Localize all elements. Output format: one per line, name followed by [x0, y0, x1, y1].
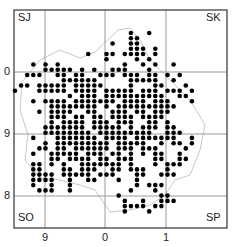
record-dot	[190, 99, 195, 104]
record-dot	[116, 104, 121, 109]
record-dot	[68, 167, 73, 172]
record-dot	[153, 46, 158, 51]
record-dot	[92, 151, 97, 156]
record-dot	[68, 67, 73, 72]
record-dot	[86, 172, 91, 177]
record-dot	[159, 151, 164, 156]
record-dot	[68, 120, 73, 125]
axis-label-northing: 8	[4, 189, 10, 201]
record-dot	[55, 130, 60, 135]
record-dot	[74, 151, 79, 156]
record-dot	[37, 167, 42, 172]
record-dot	[80, 130, 85, 135]
record-dot	[147, 115, 152, 120]
record-dot	[165, 172, 170, 177]
record-dot	[62, 136, 67, 141]
record-dot	[49, 172, 54, 177]
record-dot	[123, 52, 128, 57]
record-dot	[74, 73, 79, 78]
record-dot	[129, 151, 134, 156]
record-dot	[74, 157, 79, 162]
record-dot	[147, 209, 152, 214]
record-dot	[116, 146, 121, 151]
record-dot	[129, 41, 134, 46]
record-dot	[141, 99, 146, 104]
record-dot	[129, 125, 134, 130]
record-dot	[74, 130, 79, 135]
record-dot	[129, 94, 134, 99]
record-dot	[55, 115, 60, 120]
record-dot	[68, 130, 73, 135]
record-dot	[86, 151, 91, 156]
record-dot	[104, 146, 109, 151]
record-dot	[86, 178, 91, 183]
record-dot	[165, 104, 170, 109]
record-dot	[116, 167, 121, 172]
record-dot	[165, 99, 170, 104]
record-dot	[74, 83, 79, 88]
record-dot	[19, 83, 24, 88]
record-dot	[141, 52, 146, 57]
record-dot	[153, 109, 158, 114]
record-dot	[123, 73, 128, 78]
record-dot	[129, 167, 134, 172]
record-dot	[190, 88, 195, 93]
record-dot	[141, 104, 146, 109]
record-dot	[153, 104, 158, 109]
record-dot	[86, 83, 91, 88]
record-dot	[135, 183, 140, 188]
record-dot	[141, 125, 146, 130]
axis-label-easting: 1	[163, 231, 169, 243]
record-dot	[62, 67, 67, 72]
record-dot	[110, 109, 115, 114]
record-dot	[141, 109, 146, 114]
record-dot	[153, 73, 158, 78]
record-dot	[31, 178, 36, 183]
record-dot	[80, 104, 85, 109]
record-dot	[135, 178, 140, 183]
record-dot	[49, 188, 54, 193]
record-dot	[147, 183, 152, 188]
record-dot	[141, 88, 146, 93]
record-dot	[68, 183, 73, 188]
record-dot	[104, 94, 109, 99]
record-dot	[98, 157, 103, 162]
record-dot	[62, 99, 67, 104]
record-dot	[177, 151, 182, 156]
record-dot	[62, 162, 67, 167]
record-dot	[159, 193, 164, 198]
record-dot	[92, 83, 97, 88]
record-dot	[86, 130, 91, 135]
record-dot	[190, 141, 195, 146]
record-dot	[116, 120, 121, 125]
record-dot	[31, 62, 36, 67]
record-dot	[141, 136, 146, 141]
record-dot	[92, 146, 97, 151]
record-dot	[86, 78, 91, 83]
record-dot	[116, 162, 121, 167]
record-dot	[55, 88, 60, 93]
record-dot	[147, 78, 152, 83]
record-dot	[177, 94, 182, 99]
record-dot	[123, 204, 128, 209]
record-dot	[37, 172, 42, 177]
record-dot	[37, 83, 42, 88]
record-dot	[49, 178, 54, 183]
record-dot	[37, 146, 42, 151]
record-dot	[129, 99, 134, 104]
record-dot	[153, 157, 158, 162]
record-dot	[80, 157, 85, 162]
record-dot	[141, 62, 146, 67]
record-dot	[153, 78, 158, 83]
record-dot	[49, 83, 54, 88]
record-dot	[141, 199, 146, 204]
record-dot	[153, 183, 158, 188]
record-dot	[123, 115, 128, 120]
record-dot	[159, 183, 164, 188]
record-dot	[98, 99, 103, 104]
record-dot	[62, 172, 67, 177]
record-dot	[141, 167, 146, 172]
record-dot	[104, 162, 109, 167]
record-dot	[110, 172, 115, 177]
record-dot	[110, 52, 115, 57]
